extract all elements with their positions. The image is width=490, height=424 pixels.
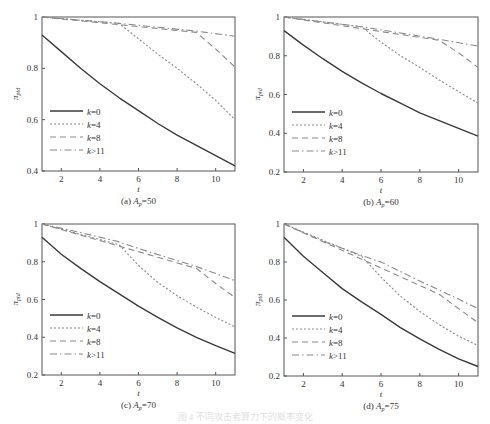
legend-label: k=4 xyxy=(329,121,343,131)
legend-label: k=4 xyxy=(87,120,101,130)
legend-label: k=0 xyxy=(329,108,343,118)
x-tick-label: 2 xyxy=(301,175,306,185)
x-tick-label: 6 xyxy=(379,175,384,185)
y-tick-label: 0.2 xyxy=(269,167,280,177)
y-tick-label: 0.4 xyxy=(269,128,281,138)
y-tick-label: 0.4 xyxy=(27,166,39,176)
legend: k=0k=4k=8k>11 xyxy=(50,311,105,360)
x-tick-label: 4 xyxy=(340,175,345,185)
x-tick-label: 8 xyxy=(418,175,423,185)
chart-panel-d: 2468100.20.40.60.81tπptdk=0k=4k=8k>11(d)… xyxy=(252,219,478,412)
series-line-solid xyxy=(284,31,478,137)
series-line-dotted xyxy=(284,224,478,346)
x-tick-label: 4 xyxy=(98,174,103,184)
series-line-solid xyxy=(42,237,235,353)
x-tick-label: 6 xyxy=(379,379,384,389)
x-tick-label: 2 xyxy=(59,378,64,388)
x-tick-label: 10 xyxy=(211,174,221,184)
x-axis-label: t xyxy=(380,389,383,399)
y-axis-label: πptd xyxy=(252,87,263,100)
legend-label: k=4 xyxy=(87,324,101,334)
legend-label: k>11 xyxy=(329,147,347,157)
chart-panel-c: 2468100.20.40.60.81tπptdk=0k=4k=8k>11(c)… xyxy=(10,219,235,411)
figure: 2468100.40.60.81tπptdk=0k=4k=8k>11(a) Ap… xyxy=(0,0,490,424)
x-tick-label: 4 xyxy=(98,378,103,388)
x-tick-label: 10 xyxy=(211,378,221,388)
panel-caption: (b) Ap=60 xyxy=(363,197,399,208)
plot-frame xyxy=(42,224,235,375)
legend-label: k>11 xyxy=(87,350,105,360)
y-tick-label: 0.4 xyxy=(27,332,39,342)
legend-label: k>11 xyxy=(87,146,105,156)
legend: k=0k=4k=8k>11 xyxy=(292,108,347,157)
y-tick-label: 0.8 xyxy=(27,63,39,73)
x-tick-label: 6 xyxy=(136,174,141,184)
legend-label: k=8 xyxy=(329,134,343,144)
y-tick-label: 0.8 xyxy=(269,51,281,61)
x-tick-label: 2 xyxy=(59,174,64,184)
x-tick-label: 10 xyxy=(454,175,464,185)
y-tick-label: 0.4 xyxy=(269,333,281,343)
x-tick-label: 8 xyxy=(175,378,180,388)
y-tick-label: 0.6 xyxy=(269,295,281,305)
y-tick-label: 0.2 xyxy=(27,370,38,380)
legend-label: k=8 xyxy=(329,338,343,348)
series-line-dashdot xyxy=(284,224,478,309)
x-axis-label: t xyxy=(137,388,140,398)
legend-label: k=4 xyxy=(329,325,343,335)
y-axis-label: πptd xyxy=(10,87,21,100)
legend: k=0k=4k=8k>11 xyxy=(292,312,347,361)
y-tick-label: 1 xyxy=(276,219,281,229)
legend: k=0k=4k=8k>11 xyxy=(50,107,105,156)
legend-label: k=0 xyxy=(329,312,343,322)
chart-panel-a: 2468100.40.60.81tπptdk=0k=4k=8k>11(a) Ap… xyxy=(10,12,235,207)
series-line-dashdot xyxy=(42,17,235,36)
x-axis-label: t xyxy=(137,184,140,194)
y-tick-label: 0.8 xyxy=(27,257,39,267)
y-tick-label: 0.6 xyxy=(27,115,39,125)
legend-label: k>11 xyxy=(329,351,347,361)
legend-label: k=8 xyxy=(87,133,101,143)
y-tick-label: 1 xyxy=(34,219,39,229)
y-tick-label: 1 xyxy=(276,12,281,22)
chart-panel-b: 2468100.20.40.60.81tπptdk=0k=4k=8k>11(b)… xyxy=(252,12,478,208)
panel-caption: (a) Ap=50 xyxy=(121,196,156,207)
x-tick-label: 8 xyxy=(175,174,180,184)
x-tick-label: 8 xyxy=(418,379,423,389)
y-tick-label: 1 xyxy=(34,12,39,22)
series-line-dashdot xyxy=(284,17,478,46)
plot-frame xyxy=(42,17,235,171)
y-axis-label: πptd xyxy=(10,292,21,305)
y-tick-label: 0.6 xyxy=(269,90,281,100)
legend-label: k=0 xyxy=(87,107,101,117)
legend-label: k=8 xyxy=(87,337,101,347)
y-axis-label: πptd xyxy=(252,293,263,306)
plot-frame xyxy=(284,224,478,376)
y-tick-label: 0.2 xyxy=(269,371,280,381)
legend-label: k=0 xyxy=(87,311,101,321)
y-tick-label: 0.8 xyxy=(269,257,281,267)
x-tick-label: 6 xyxy=(136,378,141,388)
figure-caption: 图 4 不同攻击者算力下的概率变化 xyxy=(0,410,490,423)
x-tick-label: 2 xyxy=(301,379,306,389)
y-tick-label: 0.6 xyxy=(27,295,39,305)
x-tick-label: 4 xyxy=(340,379,345,389)
series-line-solid xyxy=(42,35,235,166)
series-line-dashed xyxy=(284,224,478,323)
x-axis-label: t xyxy=(380,185,383,195)
x-tick-label: 10 xyxy=(454,379,464,389)
series-line-dashed xyxy=(284,17,478,67)
plot-frame xyxy=(284,17,478,172)
